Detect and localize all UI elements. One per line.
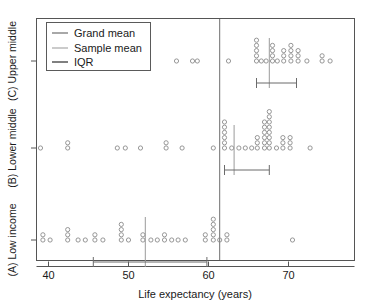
data-point (225, 233, 229, 237)
data-point (66, 141, 70, 145)
data-point (123, 146, 127, 150)
data-point (270, 54, 274, 58)
data-point (83, 238, 87, 242)
data-point (267, 136, 271, 140)
x-axis: 40 50 60 70 Life expectancy (years) (37, 262, 355, 301)
data-point (250, 146, 254, 150)
data-point (76, 238, 80, 242)
data-point (38, 146, 42, 150)
data-point (254, 38, 258, 42)
data-point (149, 238, 153, 242)
data-point (41, 233, 45, 237)
data-point (230, 146, 234, 150)
data-point (115, 146, 119, 150)
data-point (289, 59, 293, 63)
data-point (203, 238, 207, 242)
data-point (211, 222, 215, 226)
data-point (141, 233, 145, 237)
data-point (162, 238, 166, 242)
data-point (274, 146, 278, 150)
legend-label-sample-mean: Sample mean (74, 42, 142, 54)
data-point (195, 59, 199, 63)
data-point (262, 141, 266, 145)
data-point (211, 233, 215, 237)
data-point (296, 59, 300, 63)
data-point (101, 238, 105, 242)
data-point (290, 238, 294, 242)
data-point (164, 141, 168, 145)
data-point (264, 59, 268, 63)
data-point (289, 49, 293, 53)
data-point (66, 228, 70, 232)
data-point (267, 120, 271, 124)
data-point (93, 233, 97, 237)
data-point (243, 146, 247, 150)
chart-figure: 40 50 60 70 Life expectancy (years) (C) … (0, 0, 370, 307)
data-point (225, 238, 229, 242)
x-tick-label-3: 70 (282, 269, 294, 281)
data-point (267, 141, 271, 145)
data-point (222, 120, 226, 124)
data-point (222, 141, 226, 145)
group-lower_middle (38, 110, 312, 176)
data-point (119, 233, 123, 237)
data-point (222, 125, 226, 129)
data-point (281, 136, 285, 140)
data-point (267, 115, 271, 119)
data-point (162, 233, 166, 237)
data-point (41, 238, 45, 242)
data-point (281, 141, 285, 145)
data-point (288, 136, 292, 140)
data-point (222, 136, 226, 140)
data-point (262, 136, 266, 140)
data-point (66, 233, 70, 237)
x-tick-label-2: 60 (202, 269, 214, 281)
x-tick-label-0: 40 (42, 269, 54, 281)
data-point (211, 228, 215, 232)
data-point (289, 54, 293, 58)
data-point (262, 120, 266, 124)
data-point (296, 49, 300, 53)
data-point (211, 146, 215, 150)
y-label-low-income: (A) Low income (6, 203, 18, 276)
data-point (164, 146, 168, 150)
y-label-upper-middle: (C) Upper middle (6, 21, 18, 101)
data-point (262, 125, 266, 129)
data-point (308, 146, 312, 150)
data-point (296, 54, 300, 58)
data-point (176, 238, 180, 242)
data-point (288, 146, 292, 150)
data-point (270, 43, 274, 47)
data-point (254, 59, 258, 63)
data-point (170, 238, 174, 242)
legend: Grand mean Sample mean IQR (47, 23, 151, 71)
data-point (267, 130, 271, 134)
x-axis-title: Life expectancy (years) (138, 288, 252, 300)
data-point (237, 146, 241, 150)
data-point (66, 146, 70, 150)
data-point (155, 238, 159, 242)
data-point (320, 59, 324, 63)
data-point (211, 238, 215, 242)
data-point (255, 136, 259, 140)
data-point (222, 146, 226, 150)
legend-label-iqr: IQR (74, 56, 94, 68)
data-point (126, 238, 130, 242)
data-point (282, 59, 286, 63)
data-point (288, 141, 292, 145)
data-point (119, 238, 123, 242)
data-point (226, 59, 230, 63)
data-point (275, 59, 279, 63)
data-point (190, 59, 194, 63)
data-point (270, 49, 274, 53)
data-point (211, 217, 215, 221)
data-point (222, 130, 226, 134)
data-point (93, 238, 97, 242)
data-point (320, 54, 324, 58)
y-label-lower-middle: (B) Lower middle (6, 108, 18, 188)
data-point (180, 146, 184, 150)
data-point (267, 125, 271, 129)
data-point (270, 59, 274, 63)
data-point (255, 146, 259, 150)
data-point (328, 59, 332, 63)
